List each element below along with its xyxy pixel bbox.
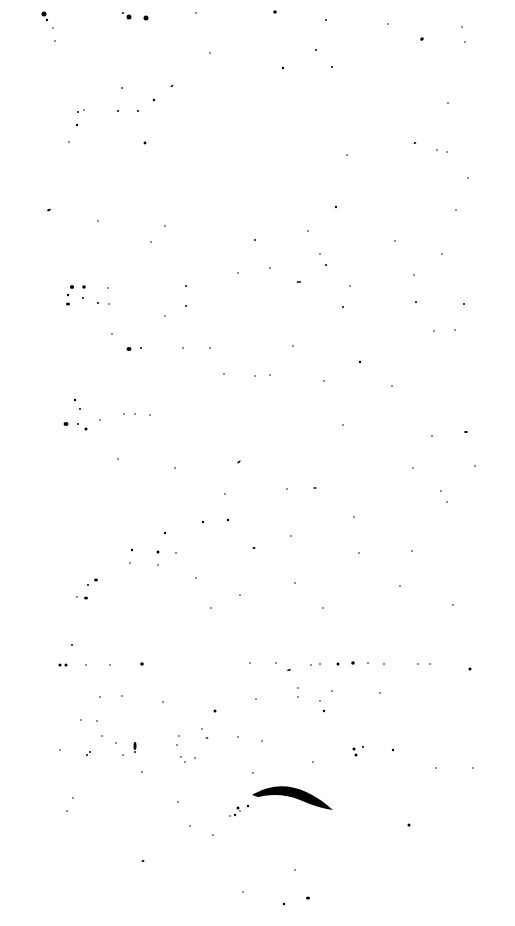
speck: [307, 230, 309, 232]
speck: [269, 267, 271, 269]
speck: [237, 272, 239, 274]
speck: [349, 285, 351, 287]
speck: [435, 767, 437, 769]
speck: [413, 274, 415, 276]
speck: [180, 756, 182, 758]
speck: [99, 419, 101, 421]
speck: [331, 66, 333, 68]
speck: [249, 662, 251, 664]
speck: [117, 110, 119, 112]
speck: [134, 742, 137, 750]
speck: [315, 49, 318, 52]
speck: [178, 735, 180, 737]
speck: [141, 771, 143, 773]
speck: [76, 596, 78, 598]
speck: [223, 373, 225, 375]
speck: [255, 698, 257, 700]
speck: [122, 754, 124, 756]
speck: [140, 347, 142, 349]
speck: [64, 422, 69, 426]
speck: [202, 521, 204, 523]
speck: [467, 177, 469, 179]
speck: [440, 490, 442, 492]
speck: [342, 424, 344, 426]
speck: [254, 375, 256, 377]
speck: [54, 40, 56, 42]
speck: [362, 746, 364, 748]
speck: [346, 154, 348, 156]
speck: [209, 347, 211, 349]
arc-blot: [252, 786, 333, 810]
speck: [84, 597, 88, 600]
speck: [253, 547, 256, 549]
speck: [275, 662, 277, 664]
speck: [46, 19, 48, 21]
speck: [358, 552, 360, 554]
speck: [72, 797, 74, 799]
speck: [164, 225, 166, 227]
speck: [122, 12, 124, 14]
speck: [455, 209, 457, 211]
speck: [229, 815, 231, 817]
speck: [131, 549, 133, 551]
speck: [252, 772, 254, 774]
speck: [452, 604, 454, 606]
speck: [331, 690, 333, 692]
speck: [174, 467, 176, 469]
speck: [134, 413, 136, 415]
speck: [209, 52, 211, 54]
speck: [412, 467, 414, 469]
speck: [269, 374, 271, 376]
speck: [77, 423, 79, 425]
speck: [137, 110, 139, 112]
speck: [182, 347, 184, 349]
speck: [99, 696, 101, 698]
speck: [342, 306, 344, 308]
speck: [282, 67, 284, 69]
speck: [66, 303, 70, 306]
speck: [76, 124, 78, 126]
speck: [296, 281, 301, 283]
speck: [283, 903, 285, 905]
speck: [162, 701, 164, 703]
speck: [474, 465, 476, 467]
speck: [353, 516, 355, 518]
speck: [111, 333, 113, 335]
speck: [313, 487, 317, 489]
speck: [115, 742, 117, 744]
speck: [157, 564, 159, 566]
speck: [297, 687, 299, 689]
speck: [237, 460, 241, 464]
speck: [164, 315, 166, 317]
speck: [323, 380, 325, 382]
speck: [87, 584, 89, 586]
speck: [433, 330, 435, 332]
speck: [463, 303, 465, 305]
speck: [325, 264, 327, 266]
speck: [149, 414, 151, 416]
speck: [97, 220, 99, 222]
speckle-field: [0, 0, 515, 926]
speck: [392, 749, 394, 751]
speck: [108, 303, 110, 305]
speck: [387, 23, 389, 25]
speck: [210, 607, 212, 609]
speck: [59, 749, 61, 751]
speck: [287, 669, 291, 671]
speck: [224, 493, 226, 495]
speck: [383, 663, 385, 665]
speck: [454, 329, 456, 331]
speck: [176, 744, 178, 746]
speck: [394, 240, 396, 242]
speck: [129, 562, 131, 564]
speck: [177, 801, 179, 803]
speck: [312, 761, 314, 763]
speck: [86, 754, 88, 756]
speck: [319, 253, 321, 255]
speck: [82, 297, 84, 299]
speck: [85, 428, 88, 431]
speck: [52, 27, 54, 29]
speck: [290, 535, 292, 537]
speck: [96, 720, 98, 722]
speck: [355, 754, 358, 757]
